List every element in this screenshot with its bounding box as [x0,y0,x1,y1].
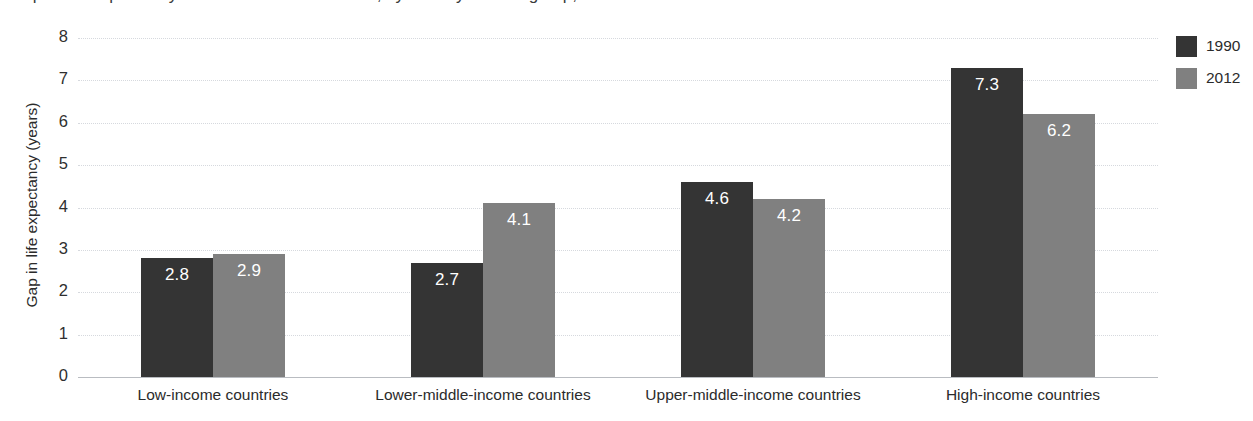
x-axis-category-label: Lower-middle-income countries [343,386,623,404]
x-axis-category-label: Upper-middle-income countries [613,386,893,404]
legend-label: 2012 [1206,69,1240,87]
legend-swatch [1176,68,1197,89]
plot-area: 876543210 2.82.92.74.14.64.27.36.2 [78,38,1158,377]
legend-entry[interactable]: 2012 [1176,64,1253,92]
y-axis-tick-label: 8 [8,27,68,46]
bar-value-label: 7.3 [951,75,1023,95]
x-axis-category-label: Low-income countries [73,386,353,404]
bar-value-label: 4.2 [753,206,825,226]
bar-value-label: 6.2 [1023,121,1095,141]
y-axis-tick-label: 5 [8,154,68,173]
legend-label: 1990 [1206,37,1240,55]
bar-group: 2.82.9 [141,38,285,377]
bar[interactable]: 2.9 [213,254,285,377]
bar-group: 2.74.1 [411,38,555,377]
bar-group: 7.36.2 [951,38,1095,377]
bar[interactable]: 4.2 [753,199,825,377]
bar[interactable]: 7.3 [951,68,1023,377]
bar[interactable]: 4.1 [483,203,555,377]
bar[interactable]: 6.2 [1023,114,1095,377]
bar[interactable]: 4.6 [681,182,753,377]
bar-value-label: 2.7 [411,270,483,290]
y-axis-tick-label: 3 [8,239,68,258]
bar-value-label: 2.9 [213,261,285,281]
y-axis-tick-label: 1 [8,324,68,343]
bar-value-label: 4.6 [681,189,753,209]
bar[interactable]: 2.7 [411,263,483,377]
axis-baseline [78,377,1158,378]
bar-value-label: 4.1 [483,210,555,230]
chart-figure: Gap in life expectancy between women and… [0,0,1253,421]
chart-legend: 19902012 [1176,32,1253,96]
x-axis-category-label: High-income countries [883,386,1163,404]
legend-entry[interactable]: 1990 [1176,32,1253,60]
bar-value-label: 2.8 [141,265,213,285]
legend-swatch [1176,36,1197,57]
bar[interactable]: 2.8 [141,258,213,377]
y-axis-tick-label: 0 [8,366,68,385]
chart-title-cropped: Gap in life expectancy between women and… [10,0,910,4]
bar-group: 4.64.2 [681,38,825,377]
y-axis-tick-label: 2 [8,281,68,300]
x-axis-category-labels: Low-income countriesLower-middle-income … [78,386,1158,416]
y-axis-tick-label: 7 [8,69,68,88]
y-axis-tick-label: 4 [8,197,68,216]
y-axis-tick-label: 6 [8,112,68,131]
